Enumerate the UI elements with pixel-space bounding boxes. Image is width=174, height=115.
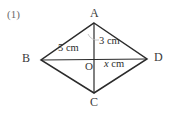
vertex-label-d: D xyxy=(154,51,163,63)
rhombus-figure: (1) A B C D O 5 cm 3 cm x cm xyxy=(0,0,174,115)
vertex-label-c: C xyxy=(90,96,98,108)
measure-label-segment-od: x cm xyxy=(104,58,124,69)
measure-label-side-ba: 5 cm xyxy=(58,42,79,53)
measure-label-segment-ao: 3 cm xyxy=(99,35,120,46)
vertex-label-b: B xyxy=(22,52,30,64)
measure-variable-x: x xyxy=(104,58,109,69)
vertex-label-o: O xyxy=(85,60,93,72)
measure-unit-cm: cm xyxy=(111,58,124,69)
vertex-label-a: A xyxy=(90,7,99,19)
